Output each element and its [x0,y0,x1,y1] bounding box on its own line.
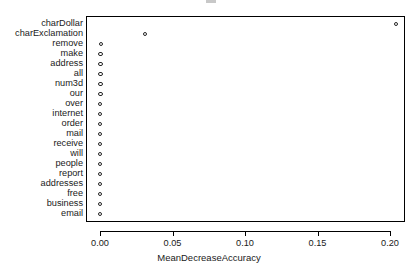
category-label: internet [52,109,83,118]
x-tick-label: 0.20 [381,238,399,249]
x-tick-mark [100,231,101,236]
plot-panel [86,16,405,222]
x-tick-label: 0.15 [309,238,327,249]
category-label: over [65,99,83,108]
category-label: addresses [41,179,83,188]
category-label: free [67,189,83,198]
category-label: business [47,199,83,208]
x-tick-label: 0.05 [164,238,182,249]
category-label: remove [52,39,83,48]
x-tick-mark [245,231,246,236]
category-label: order [62,119,83,128]
category-label: num3d [55,79,83,88]
x-tick-label: 0.10 [236,238,254,249]
data-point-marker [99,42,103,46]
category-label: receive [53,139,83,148]
x-tick-mark [173,231,174,236]
x-tick-label: 0.00 [91,238,109,249]
category-axis-labels: charDollarcharExclamationremovemakeaddre… [0,16,83,222]
category-label: mail [66,129,83,138]
data-point-marker [98,62,102,66]
cropped-title-remnant [206,0,216,3]
x-tick-mark [390,231,391,236]
category-label: make [61,49,83,58]
category-label: report [59,169,83,178]
category-label: charDollar [41,19,83,28]
category-label: will [70,149,83,158]
data-point-marker [98,82,102,86]
x-tick-mark [318,231,319,236]
data-point-marker [143,32,147,36]
category-label: our [70,89,83,98]
data-point-marker [98,92,102,96]
data-point-marker [394,22,398,26]
category-label: address [50,59,83,68]
data-point-marker [98,52,102,56]
category-label: all [74,69,83,78]
data-point-marker [98,72,102,76]
category-label: charExclamation [15,29,83,38]
x-axis-title: MeanDecreaseAccuracy [0,252,418,264]
category-label: people [55,159,83,168]
variable-importance-plot: charDollarcharExclamationremovemakeaddre… [0,0,418,273]
category-label: email [61,209,83,218]
